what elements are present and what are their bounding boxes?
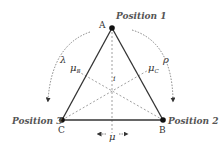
mu-symbol: μ [109, 131, 116, 142]
vertex-B-label: B [159, 125, 166, 135]
rho-symbol: ρ [162, 54, 169, 65]
vertex-A-dot [109, 25, 115, 31]
edge-AB [112, 28, 163, 120]
position-1-label: Position 1 [115, 11, 167, 21]
center-label: i [113, 74, 116, 83]
position-2-label: Position 2 [167, 116, 219, 126]
vertex-A-label: A [98, 20, 106, 30]
vertex-C-label: C [58, 125, 65, 135]
vertex-B-dot [160, 117, 166, 123]
edge-AC [62, 28, 112, 120]
lambda-symbol: λ [59, 54, 66, 65]
mu-c-symbol: μC [148, 62, 160, 74]
triangle-diagram: A B C Position 1 Position 2 Position 3 λ… [0, 0, 223, 149]
lambda-arc-arrow [48, 32, 90, 100]
mu-b-symbol: μB [70, 62, 81, 74]
position-3-label: Position 3 [11, 116, 63, 126]
